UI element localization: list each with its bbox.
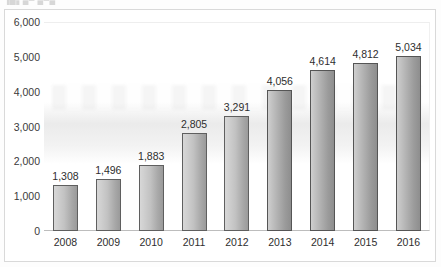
x-axis-tick-label: 2012: [216, 236, 259, 256]
bar[interactable]: [96, 179, 121, 231]
bar-value-label: 5,034: [395, 41, 421, 53]
chart-page: ▐█▖▄▀ ▄▀▄ 01,0002,0003,0004,0005,0006,00…: [0, 0, 441, 267]
y-axis-tick-label: 1,000: [0, 190, 40, 202]
x-axis-tick-label: 2010: [130, 236, 173, 256]
y-axis-tick-label: 0: [0, 225, 40, 237]
bar-value-label: 4,056: [267, 75, 293, 87]
bar-slot: 3,291: [216, 22, 259, 231]
x-axis-tick-label: 2016: [387, 236, 430, 256]
bar-value-label: 4,614: [310, 55, 336, 67]
bar-series: 1,3081,4961,8832,8053,2914,0564,6144,812…: [44, 22, 430, 231]
bar-slot: 4,812: [344, 22, 387, 231]
bar[interactable]: [139, 165, 164, 231]
y-axis-tick-label: 4,000: [0, 86, 40, 98]
cut-off-title-fragment: ▐█▖▄▀ ▄▀▄: [4, 0, 56, 5]
y-axis-labels: 01,0002,0003,0004,0005,0006,000: [0, 22, 40, 231]
bar-slot: 4,614: [301, 22, 344, 231]
y-axis-tick-label: 3,000: [0, 121, 40, 133]
bar[interactable]: [224, 116, 249, 231]
y-axis-tick-label: 6,000: [0, 16, 40, 28]
bar[interactable]: [267, 90, 292, 231]
bar[interactable]: [53, 185, 78, 231]
bar-value-label: 3,291: [224, 101, 250, 113]
bar[interactable]: [353, 63, 378, 231]
bar[interactable]: [396, 56, 421, 231]
bar-slot: 1,308: [44, 22, 87, 231]
x-axis-tick-label: 2013: [258, 236, 301, 256]
bar-value-label: 4,812: [352, 48, 378, 60]
y-axis-tick-label: 5,000: [0, 51, 40, 63]
bar-value-label: 1,496: [95, 164, 121, 176]
x-axis-tick-label: 2011: [173, 236, 216, 256]
y-axis-tick-label: 2,000: [0, 155, 40, 167]
bar-value-label: 1,883: [138, 150, 164, 162]
x-axis-tick-label: 2008: [44, 236, 87, 256]
x-axis-tick-label: 2014: [301, 236, 344, 256]
bar-value-label: 1,308: [52, 170, 78, 182]
bar[interactable]: [182, 133, 207, 231]
bar[interactable]: [310, 70, 335, 231]
bar-slot: 1,496: [87, 22, 130, 231]
bar-value-label: 2,805: [181, 118, 207, 130]
x-axis-tick-label: 2015: [344, 236, 387, 256]
bar-slot: 5,034: [387, 22, 430, 231]
bar-slot: 4,056: [258, 22, 301, 231]
bar-slot: 2,805: [173, 22, 216, 231]
x-axis-labels: 200820092010201120122013201420152016: [44, 236, 430, 256]
x-axis-tick-label: 2009: [87, 236, 130, 256]
bar-slot: 1,883: [130, 22, 173, 231]
